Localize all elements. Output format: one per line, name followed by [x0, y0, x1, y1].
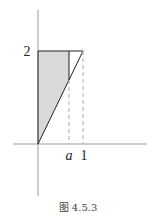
x-tick-label-1: 1	[81, 148, 88, 163]
figure-caption: 图 4.5.3	[59, 202, 98, 213]
figure-canvas: 2 a 1 图 4.5.3	[0, 0, 154, 216]
x-tick-label-a: a	[66, 148, 73, 163]
y-tick-label-2: 2	[24, 44, 31, 59]
shaded-region	[38, 51, 69, 144]
